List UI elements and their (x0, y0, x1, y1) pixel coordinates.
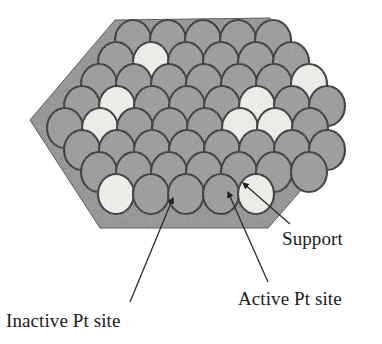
active-pt-site-sphere (98, 174, 134, 214)
inactive-pt-site-sphere (168, 174, 204, 214)
inactive-pt-site-sphere (291, 152, 327, 192)
catalyst-support-figure: Support Active Pt site Inactive Pt site (0, 0, 382, 344)
inactive-pt-site-label: Inactive Pt site (6, 310, 121, 332)
inactive-pt-site-sphere (133, 174, 169, 214)
support-label: Support (282, 228, 343, 250)
active-pt-site-label: Active Pt site (238, 288, 342, 310)
inactive-pt-site-sphere (203, 174, 239, 214)
